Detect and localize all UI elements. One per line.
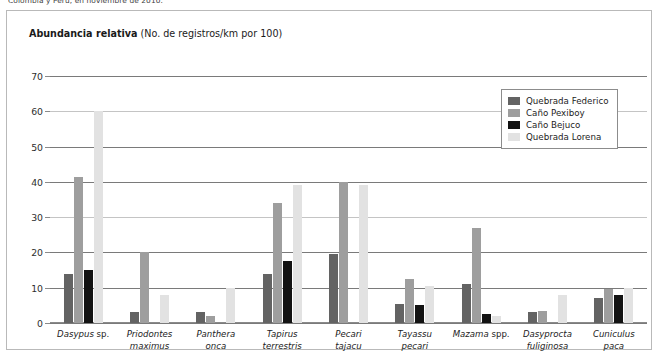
bar xyxy=(140,252,149,323)
x-axis-label: Pantheraonca xyxy=(183,329,249,357)
bar xyxy=(594,298,603,323)
bar xyxy=(160,295,169,323)
y-tick-label-50: 50 xyxy=(31,141,43,152)
bar xyxy=(359,185,368,323)
bar xyxy=(293,185,302,323)
bar xyxy=(74,177,83,323)
chart-panel: Abundancia relativa (No. de registros/km… xyxy=(6,10,652,350)
bar xyxy=(604,289,613,323)
bar-group xyxy=(116,76,182,323)
legend-rows: Quebrada FedericoCaño PexiboyCaño Bejuco… xyxy=(508,95,609,143)
y-tick-label-10: 10 xyxy=(31,282,43,293)
x-axis-labels: Dasypus sp.PriodontesmaximusPantheraonca… xyxy=(50,329,647,357)
y-tick-label-0: 0 xyxy=(37,318,43,329)
bar xyxy=(273,203,282,323)
figure-caption-top: Colombia y Perú, en noviembre de 2010. xyxy=(8,0,428,6)
legend-item: Quebrada Lorena xyxy=(508,131,609,143)
bar xyxy=(624,288,633,323)
bar xyxy=(226,288,235,323)
x-axis-label: Pecaritajacu xyxy=(315,329,381,357)
legend-swatch-icon xyxy=(508,121,520,129)
bar xyxy=(614,295,623,323)
legend-swatch-icon xyxy=(508,133,520,141)
chart-title: Abundancia relativa (No. de registros/km… xyxy=(29,28,282,39)
legend-item: Caño Bejuco xyxy=(508,119,609,131)
y-tick-label-20: 20 xyxy=(31,247,43,258)
bar-group xyxy=(382,76,448,323)
x-axis-label: Cuniculuspaca xyxy=(581,329,647,357)
bar xyxy=(472,228,481,323)
bar xyxy=(339,182,348,323)
bar xyxy=(94,111,103,323)
x-axis-label: Priodontesmaximus xyxy=(116,329,182,357)
y-tick-label-70: 70 xyxy=(31,71,43,82)
bar xyxy=(405,279,414,323)
legend-swatch-icon xyxy=(508,109,520,117)
legend-label: Caño Bejuco xyxy=(526,120,580,130)
x-axis-label: Tayassupecari xyxy=(382,329,448,357)
bar xyxy=(492,316,501,323)
bar-group xyxy=(183,76,249,323)
bar xyxy=(263,274,272,323)
bar xyxy=(415,305,424,323)
legend-label: Quebrada Lorena xyxy=(526,132,601,142)
bar xyxy=(425,286,434,323)
bar-group xyxy=(249,76,315,323)
gridline-0 xyxy=(50,323,647,324)
bar xyxy=(558,295,567,323)
x-axis-label: Mazama spp. xyxy=(448,329,514,357)
bar-group xyxy=(50,76,116,323)
x-axis-label: Tapirusterrestris xyxy=(249,329,315,357)
figure-root: Colombia y Perú, en noviembre de 2010. A… xyxy=(0,0,658,357)
chart-title-unit: (No. de registros/km por 100) xyxy=(138,28,283,39)
bar xyxy=(528,312,537,323)
legend-label: Quebrada Federico xyxy=(526,96,609,106)
x-axis-label: Dasypus sp. xyxy=(50,329,116,357)
bar xyxy=(283,261,292,323)
legend-item: Caño Pexiboy xyxy=(508,107,609,119)
bar xyxy=(130,312,139,323)
bar xyxy=(196,312,205,323)
y-tick-mark-0 xyxy=(45,323,50,324)
bar xyxy=(206,316,215,323)
bar xyxy=(329,254,338,323)
y-tick-label-40: 40 xyxy=(31,176,43,187)
legend-label: Caño Pexiboy xyxy=(526,108,585,118)
bar xyxy=(538,311,547,323)
x-axis-label: Dasyproctafuliginosa xyxy=(514,329,580,357)
chart-legend: Quebrada FedericoCaño PexiboyCaño Bejuco… xyxy=(501,89,618,149)
y-tick-label-60: 60 xyxy=(31,106,43,117)
bar xyxy=(482,314,491,323)
bar xyxy=(64,274,73,323)
bar xyxy=(395,304,404,323)
bar-group xyxy=(315,76,381,323)
legend-swatch-icon xyxy=(508,97,520,105)
bar xyxy=(462,284,471,323)
bar xyxy=(84,270,93,323)
legend-item: Quebrada Federico xyxy=(508,95,609,107)
chart-title-bold: Abundancia relativa xyxy=(29,28,138,39)
y-tick-label-30: 30 xyxy=(31,212,43,223)
